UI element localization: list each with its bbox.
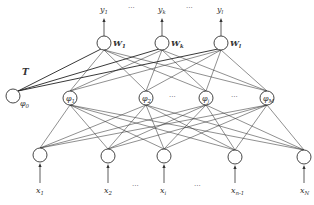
weight-label-y1: W1 bbox=[113, 38, 126, 49]
hidden-output-edge bbox=[104, 50, 206, 91]
ellipsis: ··· bbox=[194, 182, 201, 190]
node-yl bbox=[214, 36, 228, 50]
ellipsis: ··· bbox=[128, 4, 135, 12]
hidden-output-edge bbox=[104, 50, 146, 91]
input-label-xN: xN bbox=[300, 186, 310, 196]
arrowhead-icon bbox=[302, 165, 305, 169]
node-xi bbox=[157, 149, 171, 163]
arrowhead-icon bbox=[106, 164, 109, 168]
input-hidden-edge bbox=[70, 105, 108, 149]
input-hidden-edge bbox=[108, 105, 206, 149]
hidden-output-edge bbox=[70, 50, 221, 91]
input-hidden-edge bbox=[70, 105, 304, 150]
ellipsis: ··· bbox=[186, 4, 193, 12]
input-hidden-edge bbox=[108, 105, 146, 149]
input-label-x2: x2 bbox=[104, 186, 113, 196]
input-label-x1: x1 bbox=[36, 186, 44, 196]
input-hidden-edge bbox=[108, 105, 267, 149]
arrowhead-icon bbox=[233, 165, 236, 169]
ellipsis: ··· bbox=[132, 182, 139, 190]
node-xn1 bbox=[228, 150, 242, 164]
weight-label-yk: Wk bbox=[171, 38, 184, 49]
bias-output-edge bbox=[18, 49, 218, 91]
bias-weight-label-T: T bbox=[22, 67, 30, 77]
node-y1 bbox=[97, 36, 111, 50]
arrowhead-icon bbox=[102, 18, 105, 22]
hidden-output-edge bbox=[206, 50, 221, 91]
output-label-yl: yl bbox=[216, 5, 224, 15]
node-xN bbox=[297, 150, 311, 164]
ellipsis: ··· bbox=[169, 93, 176, 101]
output-label-y1: y1 bbox=[99, 5, 108, 15]
output-label-yk: yk bbox=[157, 5, 166, 15]
network-canvas: y1W1ykWkylWl······φ1φ2φjφM······φ0Tx1x2x… bbox=[0, 0, 314, 205]
input-hidden-edge bbox=[267, 105, 304, 150]
node-x1 bbox=[33, 148, 47, 162]
weight-label-yl: Wl bbox=[230, 38, 241, 49]
rbf-network-diagram: y1W1ykWkylWl······φ1φ2φjφM······φ0Tx1x2x… bbox=[0, 0, 314, 205]
input-hidden-edge bbox=[146, 105, 164, 149]
node-phi0 bbox=[6, 89, 20, 103]
hidden-output-edge bbox=[162, 50, 267, 91]
input-hidden-edge bbox=[40, 105, 267, 148]
arrowhead-icon bbox=[160, 18, 163, 22]
node-yk bbox=[155, 36, 169, 50]
arrowhead-icon bbox=[219, 18, 222, 22]
ellipsis: ··· bbox=[231, 93, 238, 101]
hidden-output-edge bbox=[221, 50, 267, 91]
node-x2 bbox=[101, 149, 115, 163]
bias-label: φ0 bbox=[20, 99, 30, 109]
arrowhead-icon bbox=[162, 164, 165, 168]
input-label-xi: xi bbox=[160, 186, 167, 196]
input-label-xn1: xn-1 bbox=[231, 186, 244, 196]
arrowhead-icon bbox=[38, 163, 41, 167]
